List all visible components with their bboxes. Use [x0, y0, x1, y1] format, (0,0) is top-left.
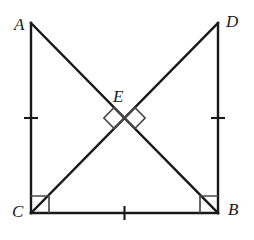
- congruence-ticks: [24, 118, 225, 220]
- vertex-label-b: B: [228, 201, 238, 218]
- geometry-canvas: [0, 0, 254, 240]
- vertex-label-c: C: [12, 203, 23, 220]
- geometry-figure: A D C B E: [0, 0, 254, 240]
- right-angle-marker-E-left: [104, 108, 125, 129]
- vertex-label-e: E: [113, 88, 123, 105]
- vertex-label-d: D: [226, 13, 238, 30]
- right-angle-marker-E-right: [125, 108, 146, 129]
- vertex-label-a: A: [14, 16, 24, 33]
